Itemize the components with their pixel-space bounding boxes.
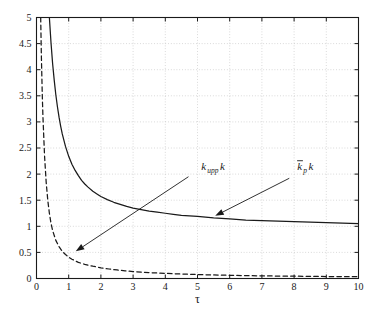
- y-tick-label: 1.5: [19, 195, 32, 206]
- plot-canvas: kuppkkpk 01234567891000.511.522.533.544.…: [0, 0, 375, 315]
- y-tick-label: 3.5: [19, 90, 32, 101]
- x-tick-label: 0: [34, 281, 39, 292]
- y-tick-label: 1: [27, 221, 32, 232]
- figure-background: [0, 0, 375, 315]
- y-tick-label: 2.5: [19, 142, 32, 153]
- y-tick-label: 4.5: [19, 38, 32, 49]
- x-tick-label: 2: [98, 281, 103, 292]
- x-tick-label: 5: [195, 281, 200, 292]
- y-tick-label: 2: [27, 169, 32, 180]
- x-tick-label: 9: [324, 281, 329, 292]
- x-tick-label: 1: [66, 281, 71, 292]
- x-tick-label: 6: [227, 281, 232, 292]
- x-tick-label: 4: [163, 281, 168, 292]
- x-tick-label: 3: [131, 281, 136, 292]
- x-tick-label: 8: [292, 281, 297, 292]
- x-axis-title: τ: [195, 292, 200, 306]
- chart-figure: kuppkkpk 01234567891000.511.522.533.544.…: [0, 0, 375, 315]
- y-tick-label: 4: [27, 64, 32, 75]
- x-tick-label: 10: [354, 281, 364, 292]
- y-tick-label: 0.5: [19, 247, 32, 258]
- x-tick-label: 7: [259, 281, 264, 292]
- y-tick-label: 3: [27, 116, 32, 127]
- y-tick-label: 0: [27, 273, 32, 284]
- y-tick-label: 5: [27, 12, 32, 23]
- axis-titles: τ: [195, 292, 200, 306]
